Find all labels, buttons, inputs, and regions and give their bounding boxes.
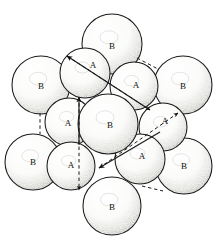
sphere-stipple [84,178,141,235]
sphere-b-bottom [83,177,141,235]
sphere-stipple [48,143,95,190]
sphere-packing-svg [0,0,216,240]
sphere-stipple [79,95,138,154]
sphere-a-bot-left [47,142,95,190]
sphere-b-center [78,94,138,154]
spheres-group [5,14,212,235]
sphere-a-top-left [60,48,110,98]
crystal-packing-figure: BBBBBBAAAAAAB [0,0,216,240]
connector-bottom-right-b [142,186,163,191]
